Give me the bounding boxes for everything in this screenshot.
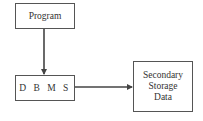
program-label: Program <box>29 11 62 22</box>
storage-label-line-1: Secondary <box>143 70 183 81</box>
dbms-label: D B M S <box>19 83 71 94</box>
secondary-storage-node: Secondary Storage Data <box>133 61 193 112</box>
storage-label-line-3: Data <box>154 92 172 103</box>
storage-label-line-2: Storage <box>148 81 177 92</box>
dbms-node: D B M S <box>15 75 75 101</box>
program-node: Program <box>15 3 75 29</box>
